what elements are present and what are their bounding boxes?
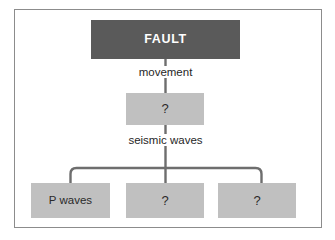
node-unknown-middle[interactable]: ? — [126, 93, 204, 125]
node-fault-label: FAULT — [144, 33, 186, 46]
edge-label-seismic-waves: seismic waves — [113, 134, 218, 146]
node-unknown-middle-label: ? — [161, 102, 168, 116]
node-unknown-third-label: ? — [253, 194, 260, 208]
node-unknown-second[interactable]: ? — [126, 183, 204, 218]
node-unknown-third[interactable]: ? — [218, 183, 296, 218]
node-p-waves-label: P waves — [49, 194, 92, 206]
edge-label-movement-text: movement — [136, 66, 196, 78]
edge-label-seismic-waves-text: seismic waves — [125, 134, 205, 146]
node-unknown-second-label: ? — [161, 194, 168, 208]
diagram-canvas: FAULT movement ? seismic waves P waves ?… — [0, 0, 335, 240]
edge-label-movement: movement — [126, 66, 205, 78]
node-p-waves[interactable]: P waves — [31, 183, 110, 218]
node-fault[interactable]: FAULT — [91, 20, 240, 59]
